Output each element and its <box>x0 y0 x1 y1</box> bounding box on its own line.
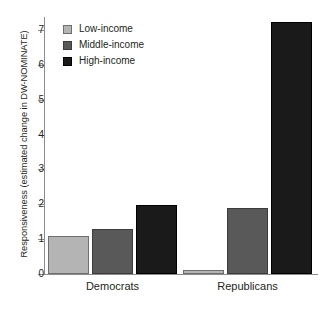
legend-label-low-income: Low-income <box>79 23 133 35</box>
x-group-label-democrats: Democrats <box>48 279 177 293</box>
bar-democrats-high-income <box>136 205 177 274</box>
bar-republicans-middle-income <box>227 208 268 274</box>
legend: Low-income Middle-income High-income <box>63 21 193 69</box>
bar-republicans-low-income <box>183 270 224 274</box>
legend-label-high-income: High-income <box>79 55 135 67</box>
legend-item-middle-income: Middle-income <box>63 37 193 53</box>
legend-swatch-high-income-icon <box>63 57 72 66</box>
legend-swatch-middle-income-icon <box>63 41 72 50</box>
bar-republicans-high-income <box>271 22 312 274</box>
x-group-label-republicans: Republicans <box>183 279 312 293</box>
x-axis-spine <box>40 274 318 275</box>
chart-figure: Responsiveness (estimated change in DW-N… <box>0 0 321 310</box>
bar-democrats-middle-income <box>92 229 133 274</box>
legend-label-middle-income: Middle-income <box>79 39 144 51</box>
legend-item-low-income: Low-income <box>63 21 193 37</box>
figure-caption <box>2 301 321 310</box>
bar-democrats-low-income <box>48 236 89 274</box>
legend-item-high-income: High-income <box>63 53 193 69</box>
legend-swatch-low-income-icon <box>63 25 72 34</box>
